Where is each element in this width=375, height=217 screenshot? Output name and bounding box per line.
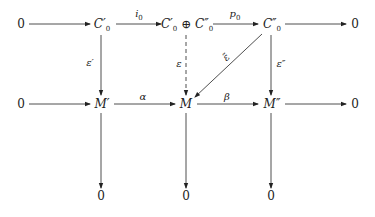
c0-double-prime-base: C″	[263, 17, 277, 31]
label-alpha: α	[140, 91, 147, 102]
node-m: M	[180, 97, 192, 111]
direct-sum-right-sub: 0	[209, 25, 213, 33]
c0-prime-subscript: 0	[106, 25, 110, 33]
label-epsilon-double-prime: ε″	[276, 58, 285, 69]
label-epsilon: ε	[176, 58, 181, 69]
node-zero-mid-left: 0	[17, 97, 25, 111]
node-c0-double-prime: C″0	[263, 17, 281, 33]
node-direct-sum: C′0 ⊕ C″0	[161, 17, 213, 33]
c0-prime-base: C′	[94, 17, 106, 31]
label-i0: i0	[135, 8, 143, 22]
i0-sub: 0	[138, 14, 142, 22]
p0-sub: 0	[236, 14, 240, 22]
node-zero-top-right: 0	[351, 17, 359, 31]
label-epsilon-prime: ε′	[86, 57, 94, 68]
direct-sum-right: C″	[195, 17, 209, 31]
node-zero-mid-right: 0	[351, 97, 359, 111]
node-zero-bottom-2: 0	[182, 189, 190, 203]
node-c0-prime: C′0	[94, 17, 110, 33]
direct-sum-left: C′	[161, 17, 173, 31]
direct-sum-operator: ⊕	[177, 17, 195, 31]
node-zero-top-left: 0	[17, 17, 25, 31]
label-beta: β	[224, 91, 230, 102]
label-p0: p0	[230, 8, 241, 22]
node-zero-bottom-3: 0	[267, 189, 275, 203]
node-m-double-prime: M″	[264, 97, 281, 111]
c0-double-prime-subscript: 0	[277, 25, 281, 33]
node-zero-bottom-1: 0	[97, 189, 105, 203]
arrow-epsilon-tilde	[195, 34, 262, 97]
node-m-prime: M′	[94, 97, 109, 111]
